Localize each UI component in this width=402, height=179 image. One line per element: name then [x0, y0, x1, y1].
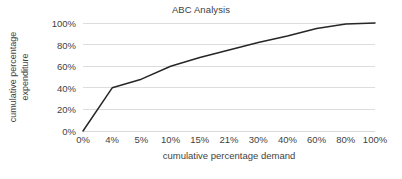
gridlines	[83, 23, 375, 131]
abc-analysis-chart: ABC Analysis cumulative percentage expen…	[0, 0, 402, 179]
plot-svg	[83, 23, 375, 131]
y-axis-title-line-2: expenditure	[19, 32, 31, 123]
x-axis-tick-label: 60%	[307, 134, 326, 145]
x-axis-tick-label: 5%	[135, 134, 149, 145]
y-axis-title: cumulative percentage expenditure	[6, 18, 32, 136]
x-axis-tick-label: 80%	[336, 134, 355, 145]
y-axis-tick-label: 60%	[57, 61, 76, 72]
y-axis-tick-label: 0%	[62, 126, 76, 137]
x-axis-tick-label: 10%	[161, 134, 180, 145]
x-axis-title: cumulative percentage demand	[83, 150, 375, 161]
y-axis-tick-label: 40%	[57, 82, 76, 93]
y-axis-title-line-1: cumulative percentage	[8, 32, 20, 123]
x-axis-tick-label: 100%	[363, 134, 387, 145]
x-axis-tick-label: 15%	[190, 134, 209, 145]
x-axis-tick-labels: 0%4%5%10%15%21%30%40%60%80%100%	[83, 134, 375, 150]
cumulative-curve	[83, 23, 375, 131]
y-axis-tick-label: 100%	[52, 18, 76, 29]
x-axis-tick-label: 0%	[76, 134, 90, 145]
y-axis-tick-label: 80%	[57, 39, 76, 50]
plot-area	[83, 23, 375, 131]
x-axis-tick-label: 40%	[278, 134, 297, 145]
x-axis-tick-label: 21%	[219, 134, 238, 145]
x-axis-tick-label: 30%	[249, 134, 268, 145]
x-axis-tick-label: 4%	[105, 134, 119, 145]
y-axis-tick-labels: 0%20%40%60%80%100%	[34, 0, 79, 179]
y-axis-tick-label: 20%	[57, 104, 76, 115]
